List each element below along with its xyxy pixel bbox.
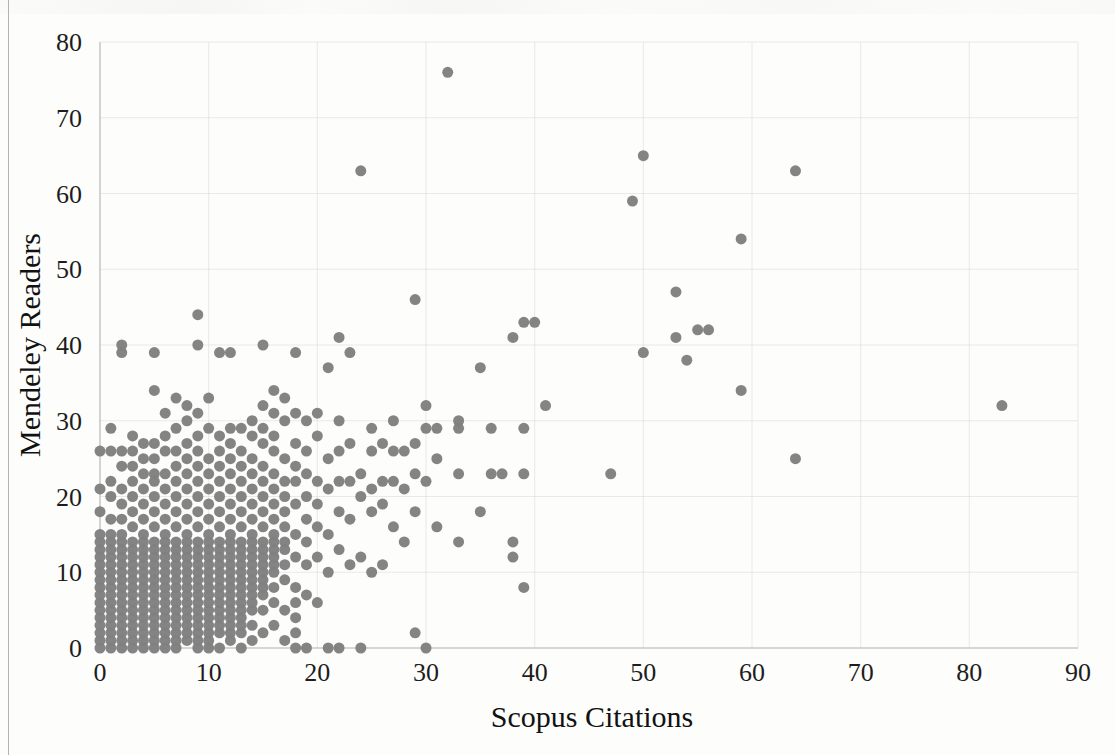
data-point bbox=[431, 453, 442, 464]
chart-svg: 0102030405060708090 01020304050607080 Sc… bbox=[0, 0, 1115, 755]
data-point bbox=[486, 468, 497, 479]
data-point bbox=[279, 521, 290, 532]
data-point bbox=[149, 506, 160, 517]
data-point bbox=[236, 643, 247, 654]
data-point bbox=[127, 476, 138, 487]
y-tick-label: 60 bbox=[56, 180, 82, 209]
data-point bbox=[377, 438, 388, 449]
data-point bbox=[105, 514, 116, 525]
data-point bbox=[181, 415, 192, 426]
data-point bbox=[171, 461, 182, 472]
data-point bbox=[268, 529, 279, 540]
data-point bbox=[247, 620, 258, 631]
data-point bbox=[410, 506, 421, 517]
data-point bbox=[236, 476, 247, 487]
data-point bbox=[192, 521, 203, 532]
data-point bbox=[312, 552, 323, 563]
data-point bbox=[127, 491, 138, 502]
data-point bbox=[638, 347, 649, 358]
data-point bbox=[301, 446, 312, 457]
data-point bbox=[290, 643, 301, 654]
data-point bbox=[225, 438, 236, 449]
data-point bbox=[105, 423, 116, 434]
data-point bbox=[268, 620, 279, 631]
x-tick-label: 0 bbox=[94, 658, 107, 687]
data-point bbox=[225, 423, 236, 434]
data-point bbox=[268, 430, 279, 441]
y-tick-label: 10 bbox=[56, 558, 82, 587]
data-point bbox=[290, 408, 301, 419]
data-point bbox=[344, 347, 355, 358]
x-tick-label: 30 bbox=[413, 658, 439, 687]
data-point bbox=[301, 589, 312, 600]
data-point bbox=[268, 468, 279, 479]
data-point bbox=[290, 347, 301, 358]
data-point bbox=[236, 536, 247, 547]
data-point bbox=[670, 332, 681, 343]
data-point bbox=[138, 483, 149, 494]
data-point bbox=[421, 643, 432, 654]
data-point bbox=[279, 453, 290, 464]
data-point bbox=[258, 491, 269, 502]
data-point bbox=[399, 536, 410, 547]
data-point bbox=[268, 446, 279, 457]
data-point bbox=[518, 582, 529, 593]
data-point bbox=[203, 393, 214, 404]
data-point bbox=[323, 483, 334, 494]
data-point bbox=[225, 347, 236, 358]
data-point bbox=[160, 446, 171, 457]
data-point bbox=[116, 514, 127, 525]
data-point bbox=[181, 499, 192, 510]
y-tick-label: 20 bbox=[56, 483, 82, 512]
data-point bbox=[149, 438, 160, 449]
data-point bbox=[268, 408, 279, 419]
data-point bbox=[301, 491, 312, 502]
data-point bbox=[214, 430, 225, 441]
data-point bbox=[149, 536, 160, 547]
y-axis-tick-labels: 01020304050607080 bbox=[56, 28, 82, 663]
data-point bbox=[312, 408, 323, 419]
data-point bbox=[181, 514, 192, 525]
data-point bbox=[301, 514, 312, 525]
data-point bbox=[149, 347, 160, 358]
data-point bbox=[149, 453, 160, 464]
data-point bbox=[334, 506, 345, 517]
data-point bbox=[388, 476, 399, 487]
data-point bbox=[268, 385, 279, 396]
data-point bbox=[127, 506, 138, 517]
y-tick-label: 80 bbox=[56, 28, 82, 57]
data-point bbox=[192, 408, 203, 419]
data-point bbox=[790, 453, 801, 464]
data-point bbox=[355, 643, 366, 654]
data-point bbox=[344, 438, 355, 449]
data-point bbox=[116, 340, 127, 351]
data-point bbox=[377, 559, 388, 570]
data-point bbox=[268, 514, 279, 525]
data-point bbox=[334, 643, 345, 654]
data-point bbox=[171, 446, 182, 457]
data-point bbox=[475, 506, 486, 517]
data-point bbox=[507, 536, 518, 547]
data-point bbox=[181, 453, 192, 464]
data-point bbox=[116, 461, 127, 472]
data-point bbox=[475, 362, 486, 373]
data-point bbox=[268, 499, 279, 510]
data-point bbox=[171, 423, 182, 434]
data-point bbox=[301, 643, 312, 654]
data-point bbox=[181, 483, 192, 494]
data-point bbox=[453, 468, 464, 479]
data-point bbox=[181, 529, 192, 540]
data-point bbox=[692, 324, 703, 335]
data-point bbox=[171, 491, 182, 502]
data-point bbox=[323, 567, 334, 578]
data-point bbox=[279, 393, 290, 404]
data-point bbox=[301, 536, 312, 547]
data-point bbox=[366, 446, 377, 457]
data-point bbox=[95, 446, 106, 457]
data-point bbox=[138, 499, 149, 510]
scatter-plot: 0102030405060708090 01020304050607080 Sc… bbox=[0, 0, 1115, 755]
data-point bbox=[399, 483, 410, 494]
data-point bbox=[312, 499, 323, 510]
data-point bbox=[192, 506, 203, 517]
data-point bbox=[225, 468, 236, 479]
